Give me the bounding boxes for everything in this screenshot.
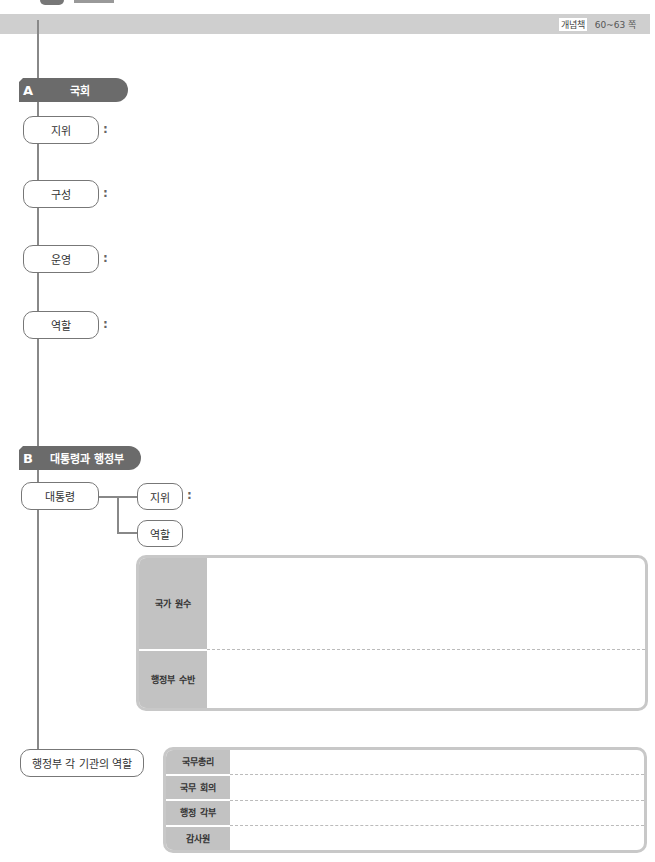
- book-label: 개념책: [559, 18, 587, 31]
- table-row-label: 국무 회의: [166, 774, 230, 800]
- table-row-label: 행정부 수반: [139, 649, 207, 708]
- pill-president: 대통령: [21, 482, 99, 510]
- table-answer-column: [207, 558, 645, 708]
- answer-field-head-of-state[interactable]: [207, 558, 645, 649]
- table-label-column: 국무총리 국무 회의 행정 각부 감사원: [166, 750, 230, 850]
- pill-assembly-composition: 구성: [23, 180, 99, 208]
- colon: :: [187, 488, 192, 502]
- pill-label: 지위: [150, 489, 170, 505]
- colon: :: [103, 251, 108, 265]
- answer-field-prime-minister[interactable]: [230, 750, 644, 774]
- colon: :: [103, 186, 108, 200]
- pill-assembly-operation: 운영: [23, 245, 99, 273]
- connector-line: [117, 532, 137, 534]
- table-row-label: 국무총리: [166, 750, 230, 774]
- president-role-table: 국가 원수 행정부 수반: [136, 555, 648, 711]
- pill-assembly-role: 역할: [23, 311, 99, 339]
- answer-field-audit-board[interactable]: [230, 825, 644, 850]
- section-a-tag: A 국회: [32, 78, 128, 102]
- pill-agency-roles: 행정부 각 기관의 역할: [20, 749, 144, 777]
- colon: :: [103, 317, 108, 331]
- table-row-label: 행정 각부: [166, 799, 230, 825]
- pill-president-status: 지위: [137, 483, 183, 510]
- page-range: 60~63 쪽: [595, 18, 636, 31]
- section-b-tag: B 대통령과 행정부: [33, 446, 141, 470]
- connector-line: [117, 496, 119, 533]
- answer-field-cabinet-council[interactable]: [230, 774, 644, 799]
- top-decoration-bar: [74, 0, 114, 3]
- pill-label: 구성: [51, 186, 71, 202]
- pill-label: 역할: [51, 317, 71, 333]
- pill-label: 행정부 각 기관의 역할: [32, 755, 133, 771]
- pill-president-role: 역할: [137, 520, 183, 547]
- header-bar: 개념책 60~63 쪽: [0, 14, 650, 34]
- pill-label: 역할: [150, 526, 170, 542]
- top-decoration: [40, 0, 64, 5]
- section-a-title: 국회: [32, 82, 128, 98]
- pill-label: 지위: [51, 122, 71, 138]
- pill-label: 운영: [51, 251, 71, 267]
- table-answer-column: [230, 750, 644, 850]
- section-a-letter: A: [19, 78, 37, 102]
- table-row-label: 국가 원수: [139, 558, 207, 649]
- agency-role-table: 국무총리 국무 회의 행정 각부 감사원: [163, 747, 647, 853]
- answer-field-head-of-executive[interactable]: [207, 649, 645, 708]
- answer-field-ministries[interactable]: [230, 800, 644, 825]
- section-b-title: 대통령과 행정부: [33, 450, 141, 466]
- pill-label: 대통령: [45, 488, 75, 504]
- page-reference: 개념책 60~63 쪽: [559, 18, 636, 31]
- section-b-letter: B: [19, 446, 37, 470]
- table-label-column: 국가 원수 행정부 수반: [139, 558, 207, 708]
- pill-assembly-status: 지위: [23, 116, 99, 144]
- table-row-label: 감사원: [166, 825, 230, 851]
- colon: :: [103, 122, 108, 136]
